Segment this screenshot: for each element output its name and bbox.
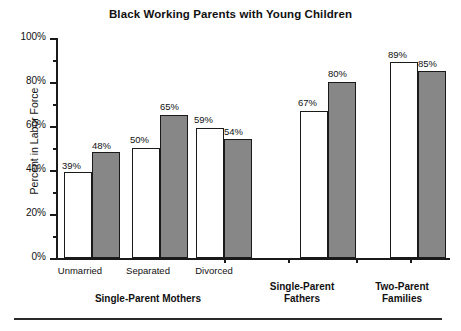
bar-twoparent-white <box>390 62 418 258</box>
chart-title: Black Working Parents with Young Childre… <box>0 8 461 20</box>
bar-unmarried-gray <box>92 152 120 258</box>
y-tick-80 <box>50 82 56 84</box>
group-label-twoparent-line1: Two-Parent <box>375 281 429 292</box>
category-label-separated: Separated <box>116 265 180 276</box>
bar-value-twoparent-gray: 85% <box>418 58 437 69</box>
y-axis-line <box>56 38 58 258</box>
bar-divorced-gray <box>224 139 252 258</box>
bar-separated-gray <box>160 115 188 258</box>
group-label-fathers-line2: Fathers <box>284 293 320 304</box>
x-tick-group-sep-2 <box>288 258 290 263</box>
bar-unmarried-white <box>64 172 92 258</box>
bar-fathers-gray <box>328 82 356 258</box>
group-label-fathers-line1: Single-Parent <box>270 281 334 292</box>
y-tick-0 <box>50 258 56 260</box>
bottom-divider <box>14 318 442 320</box>
bar-twoparent-gray <box>418 71 446 258</box>
bar-value-separated-white: 50% <box>130 134 149 145</box>
bar-value-fathers-gray: 80% <box>328 68 347 79</box>
bar-value-divorced-white: 59% <box>194 114 213 125</box>
group-label-two-parent-families: Two-Parent Families <box>352 281 452 305</box>
group-label-twoparent-line2: Families <box>382 293 422 304</box>
x-axis-line <box>56 258 450 260</box>
y-tick-60 <box>50 126 56 128</box>
y-tick-label-100: 100% <box>2 31 46 42</box>
x-tick-group-sep-4 <box>410 258 412 263</box>
bar-value-unmarried-gray: 48% <box>92 140 111 151</box>
bar-fathers-white <box>300 111 328 258</box>
y-tick-minor-50 <box>53 148 57 150</box>
group-label-single-parent-fathers: Single-Parent Fathers <box>252 281 352 305</box>
x-tick-group-sep-1 <box>224 258 226 263</box>
y-tick-minor-70 <box>53 104 57 106</box>
y-tick-minor-30 <box>53 192 57 194</box>
category-label-divorced: Divorced <box>182 265 246 276</box>
bar-value-twoparent-white: 89% <box>388 49 407 60</box>
chart-container: Black Working Parents with Young Childre… <box>0 0 461 331</box>
group-label-single-parent-mothers: Single-Parent Mothers <box>48 293 248 305</box>
y-tick-20 <box>50 214 56 216</box>
y-axis-title: Percent in Labor Force <box>28 61 40 221</box>
bar-value-fathers-white: 67% <box>298 97 317 108</box>
category-label-unmarried: Unmarried <box>48 265 112 276</box>
bar-separated-white <box>132 148 160 258</box>
x-tick-group-sep-3 <box>356 258 358 263</box>
y-tick-minor-90 <box>53 60 57 62</box>
bar-value-separated-gray: 65% <box>160 101 179 112</box>
bar-value-divorced-gray: 54% <box>224 126 243 137</box>
group-label-mothers-line1: Single-Parent Mothers <box>95 293 201 304</box>
y-tick-40 <box>50 170 56 172</box>
y-tick-100 <box>50 38 56 40</box>
bar-divorced-white <box>196 128 224 258</box>
y-tick-minor-10 <box>53 236 57 238</box>
bar-value-unmarried-white: 39% <box>62 160 81 171</box>
plot-area: 100% 80% 60% 40% 20% 0% 39% 48% 50% 65% <box>56 38 450 258</box>
y-tick-label-0: 0% <box>2 251 46 262</box>
